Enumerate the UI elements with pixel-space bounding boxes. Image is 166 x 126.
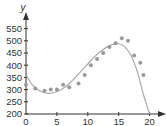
y-tick-label: 350 [6, 72, 22, 83]
y-tick-label: 400 [6, 60, 22, 71]
fitted-curve-line [26, 44, 150, 114]
data-point [126, 39, 130, 43]
fitted-curve [26, 44, 150, 114]
data-point [55, 88, 59, 92]
data-points [24, 36, 145, 92]
data-point [61, 83, 65, 87]
x-axis-arrow-icon [158, 111, 166, 117]
data-point [95, 57, 99, 61]
y-tick-label: 300 [6, 84, 22, 95]
data-point [83, 73, 87, 77]
x-tick-label: 5 [54, 116, 59, 126]
y-tick-label: 550 [6, 23, 22, 34]
y-tick-label: 500 [6, 35, 22, 46]
data-point [24, 83, 28, 87]
x-tick-label: 0 [23, 116, 28, 126]
data-point [33, 86, 37, 90]
data-point [101, 51, 105, 55]
axes: y05101520200250300350400450500550 [6, 2, 166, 126]
data-point [49, 88, 53, 92]
data-point [67, 85, 71, 89]
data-point [120, 36, 124, 40]
data-point [141, 73, 145, 77]
data-point [114, 41, 118, 45]
x-tick-label: 20 [144, 116, 155, 126]
x-tick-label: 15 [113, 116, 124, 126]
x-tick-label: 10 [83, 116, 94, 126]
y-axis-arrow-icon [23, 12, 29, 20]
data-point [138, 61, 142, 65]
data-point [132, 53, 136, 57]
y-tick-label: 450 [6, 47, 22, 58]
data-point [77, 82, 81, 86]
y-axis-label: y [20, 2, 27, 13]
data-point [43, 89, 47, 93]
data-point [107, 45, 111, 49]
y-tick-label: 200 [6, 108, 22, 119]
chart: y05101520200250300350400450500550 [0, 0, 166, 126]
y-tick-label: 250 [6, 96, 22, 107]
data-point [89, 63, 93, 67]
